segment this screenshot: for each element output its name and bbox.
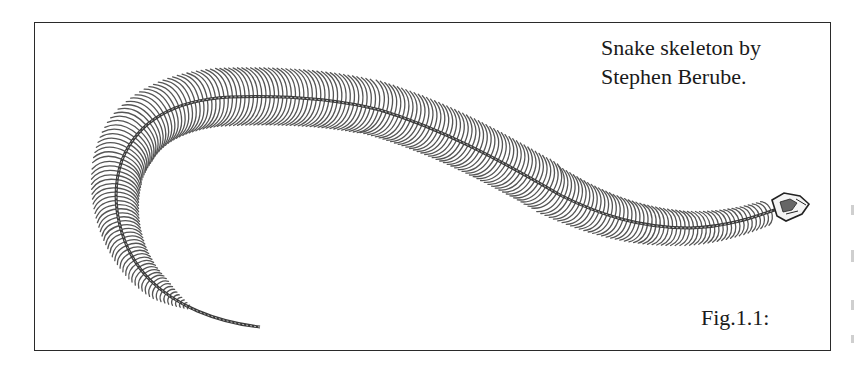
bleed-through-mark bbox=[851, 205, 854, 215]
bleed-through-mark bbox=[851, 250, 854, 262]
ribs bbox=[92, 68, 773, 310]
skull bbox=[772, 193, 809, 221]
credit-line-1: Snake skeleton by bbox=[601, 33, 761, 62]
credit-line-2: Stephen Berube. bbox=[601, 62, 761, 91]
bleed-through-mark bbox=[851, 335, 854, 343]
figure-credit: Snake skeleton by Stephen Berube. bbox=[601, 33, 761, 91]
figure-label: Fig.1.1: bbox=[701, 303, 769, 332]
bleed-through-mark bbox=[851, 300, 854, 310]
